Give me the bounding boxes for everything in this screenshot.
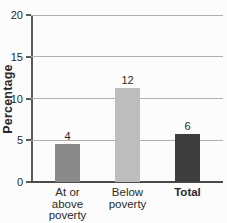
y-tick-mark-20 xyxy=(26,14,31,16)
bar-value-label-2: 6 xyxy=(173,120,203,132)
y-tick-label-15: 15 xyxy=(0,51,26,63)
bar-0 xyxy=(55,144,80,182)
y-tick-label-5: 5 xyxy=(0,134,26,146)
x-category-label-0: At or above poverty xyxy=(37,187,99,222)
y-tick-mark-15 xyxy=(26,56,31,58)
bar-2 xyxy=(175,134,200,182)
y-tick-mark-5 xyxy=(26,139,31,141)
bar-1 xyxy=(115,88,140,182)
y-tick-mark-0 xyxy=(26,181,31,183)
y-tick-label-20: 20 xyxy=(0,9,26,21)
gridline-20 xyxy=(31,15,223,16)
y-tick-label-0: 0 xyxy=(0,176,26,188)
bar-value-label-0: 4 xyxy=(53,130,83,142)
bar-value-label-1: 12 xyxy=(113,74,143,86)
gridline-15 xyxy=(31,56,223,57)
x-category-label-1: Below poverty xyxy=(97,187,159,210)
y-tick-mark-10 xyxy=(26,98,31,100)
bar-chart: Percentage 4126 05101520At or above pove… xyxy=(0,0,227,223)
plot-area: 4126 xyxy=(31,15,223,182)
y-tick-label-10: 10 xyxy=(0,93,26,105)
x-category-label-2: Total xyxy=(157,187,219,199)
